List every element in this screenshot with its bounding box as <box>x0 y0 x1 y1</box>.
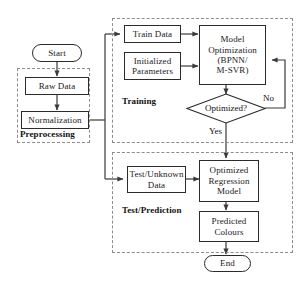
node-predicted-colours[interactable]: Predicted Colours <box>199 211 259 242</box>
node-test-unknown-data[interactable]: Test/Unknown Data <box>127 166 186 193</box>
edge-label-yes: Yes <box>209 126 222 136</box>
edge-label-no: No <box>263 93 274 103</box>
flowchart-diagram: Preprocessing Training Test/Prediction S… <box>0 0 306 283</box>
node-end[interactable]: End <box>204 255 251 272</box>
node-train-data[interactable]: Train Data <box>124 25 181 43</box>
node-optimized-decision-label: Optimized? <box>186 103 266 113</box>
group-label-test-prediction: Test/Prediction <box>122 205 182 215</box>
node-optimized-regression-model[interactable]: Optimized Regression Model <box>199 160 259 202</box>
node-raw-data[interactable]: Raw Data <box>25 77 89 95</box>
node-model-optimization[interactable]: Model Optimization (BPNN/ M-SVR) <box>199 25 266 85</box>
group-label-preprocessing: Preprocessing <box>20 129 75 139</box>
node-normalization[interactable]: Normalization <box>21 111 89 129</box>
node-start[interactable]: Start <box>32 44 82 62</box>
node-initialized-parameters[interactable]: Initialized Parameters <box>124 52 181 80</box>
group-label-training: Training <box>122 96 156 106</box>
